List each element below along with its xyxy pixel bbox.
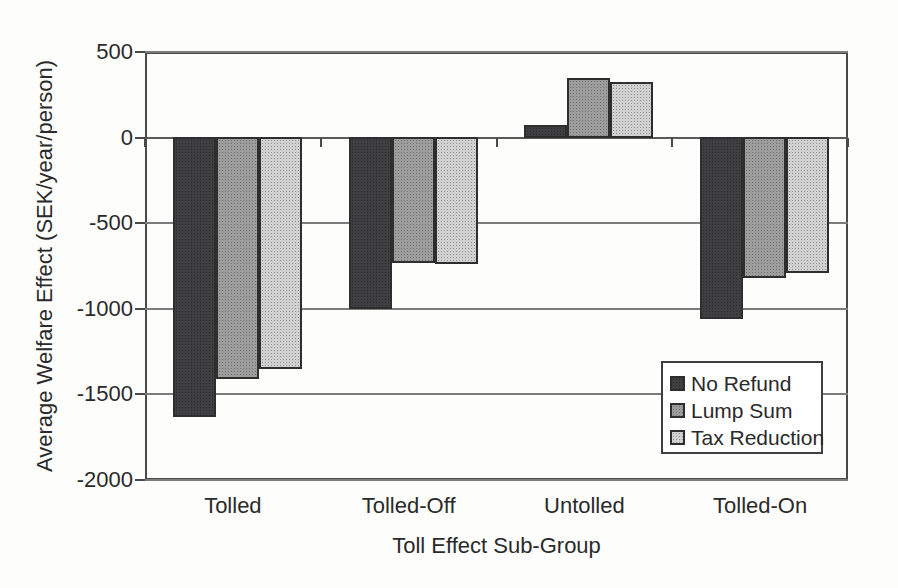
y-tick-mark xyxy=(135,222,145,224)
x-tick-mark xyxy=(847,138,849,147)
bar-tolled-tax-reduction xyxy=(259,137,302,369)
bar-tolled-on-lump-sum xyxy=(743,137,786,278)
legend-swatch-tax-reduction xyxy=(670,430,685,445)
category-label-tolled: Tolled xyxy=(148,494,318,518)
y-tick-label: 500 xyxy=(38,40,133,64)
bar-untolled-no-refund xyxy=(524,125,567,138)
gridline xyxy=(145,51,848,53)
x-tick-mark xyxy=(144,138,146,147)
legend-label-lump-sum: Lump Sum xyxy=(691,397,793,424)
legend-item-no-refund: No Refund xyxy=(663,370,821,397)
x-tick-mark xyxy=(671,138,673,147)
bar-tolled-off-tax-reduction xyxy=(435,137,478,265)
y-tick-label: -500 xyxy=(38,211,133,235)
x-axis-title: Toll Effect Sub-Group xyxy=(145,533,848,559)
bar-tolled-no-refund xyxy=(173,137,216,417)
y-tick-mark xyxy=(135,51,145,53)
legend-label-tax-reduction: Tax Reduction xyxy=(691,424,824,451)
bar-tolled-off-no-refund xyxy=(349,137,392,309)
y-tick-mark xyxy=(135,308,145,310)
y-tick-label: -1000 xyxy=(38,297,133,321)
welfare-effect-bar-chart: Average Welfare Effect (SEK/year/person)… xyxy=(0,0,898,588)
y-tick-mark xyxy=(135,393,145,395)
bar-tolled-lump-sum xyxy=(216,137,259,379)
legend-item-tax-reduction: Tax Reduction xyxy=(663,424,821,451)
bar-untolled-lump-sum xyxy=(567,78,610,137)
category-label-tolled-on: Tolled-On xyxy=(675,494,845,518)
category-label-untolled: Untolled xyxy=(499,494,669,518)
legend-label-no-refund: No Refund xyxy=(691,370,791,397)
y-tick-label: -1500 xyxy=(38,382,133,406)
legend-swatch-lump-sum xyxy=(670,403,685,418)
legend-item-lump-sum: Lump Sum xyxy=(663,397,821,424)
y-axis-title: Average Welfare Effect (SEK/year/person) xyxy=(28,52,62,480)
x-tick-mark xyxy=(496,138,498,147)
y-tick-label: -2000 xyxy=(38,468,133,492)
x-tick-mark xyxy=(320,138,322,147)
y-tick-mark xyxy=(135,479,145,481)
bar-untolled-tax-reduction xyxy=(610,82,653,138)
category-label-tolled-off: Tolled-Off xyxy=(324,494,494,518)
legend: No RefundLump SumTax Reduction xyxy=(661,361,823,454)
bar-tolled-on-tax-reduction xyxy=(786,137,829,273)
bar-tolled-on-no-refund xyxy=(700,137,743,319)
gridline xyxy=(145,479,848,481)
legend-swatch-no-refund xyxy=(670,376,685,391)
y-tick-label: 0 xyxy=(38,126,133,150)
bar-tolled-off-lump-sum xyxy=(392,137,435,263)
